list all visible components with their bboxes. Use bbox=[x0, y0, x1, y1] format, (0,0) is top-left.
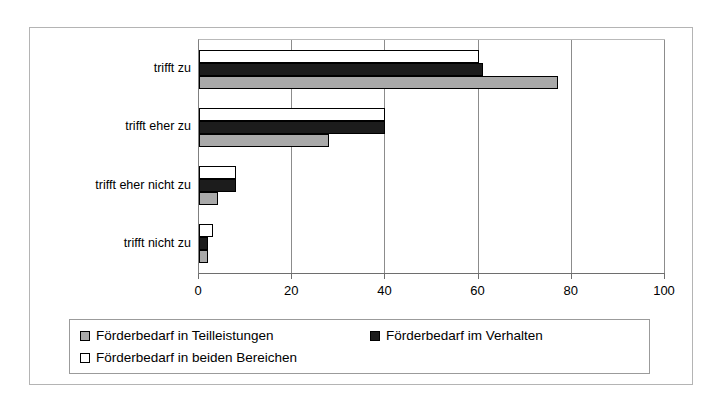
legend-label: Förderbedarf in beiden Bereichen bbox=[96, 351, 297, 365]
legend-item[interactable]: Förderbedarf in beiden Bereichen bbox=[80, 351, 297, 365]
category-group: trifft eher zu bbox=[199, 98, 665, 156]
bar bbox=[199, 76, 558, 89]
x-axis-tick bbox=[478, 274, 479, 279]
bar bbox=[199, 179, 236, 192]
legend-swatch-icon bbox=[80, 353, 90, 363]
bar bbox=[199, 134, 329, 147]
chart-frame: trifft zutrifft eher zutrifft eher nicht… bbox=[29, 27, 693, 385]
bar bbox=[199, 192, 218, 205]
bar bbox=[199, 166, 236, 179]
bar bbox=[199, 224, 213, 237]
x-axis-tick-label: 0 bbox=[194, 284, 201, 297]
x-axis-tick-label: 100 bbox=[653, 284, 675, 297]
x-axis-tick-label: 20 bbox=[284, 284, 298, 297]
legend-swatch-icon bbox=[370, 331, 380, 341]
legend-item[interactable]: Förderbedarf im Verhalten bbox=[370, 329, 543, 343]
category-label: trifft eher zu bbox=[0, 120, 199, 133]
bar bbox=[199, 121, 385, 134]
chart-legend: Förderbedarf in TeilleistungenFörderbeda… bbox=[69, 319, 650, 374]
legend-swatch-icon bbox=[80, 331, 90, 341]
category-label: trifft eher nicht zu bbox=[0, 179, 199, 192]
bar bbox=[199, 50, 479, 63]
bar bbox=[199, 63, 483, 76]
x-axis-tick bbox=[291, 274, 292, 279]
x-axis-tick-label: 80 bbox=[564, 284, 578, 297]
bar bbox=[199, 237, 208, 250]
category-group: trifft eher nicht zu bbox=[199, 157, 665, 215]
legend-label: Förderbedarf im Verhalten bbox=[386, 329, 543, 343]
category-label: trifft zu bbox=[0, 62, 199, 75]
legend-label: Förderbedarf in Teilleistungen bbox=[96, 329, 274, 343]
bar bbox=[199, 250, 208, 263]
category-group: trifft nicht zu bbox=[199, 215, 665, 273]
bar bbox=[199, 108, 385, 121]
x-axis-tick bbox=[664, 274, 665, 279]
x-axis-tick-label: 60 bbox=[470, 284, 484, 297]
x-axis-tick bbox=[571, 274, 572, 279]
x-axis-tick bbox=[198, 274, 199, 279]
legend-item[interactable]: Förderbedarf in Teilleistungen bbox=[80, 329, 274, 343]
category-group: trifft zu bbox=[199, 40, 665, 98]
x-axis-tick-label: 40 bbox=[377, 284, 391, 297]
category-label: trifft nicht zu bbox=[0, 237, 199, 250]
x-axis-tick bbox=[384, 274, 385, 279]
plot-area: trifft zutrifft eher zutrifft eher nicht… bbox=[198, 39, 665, 274]
